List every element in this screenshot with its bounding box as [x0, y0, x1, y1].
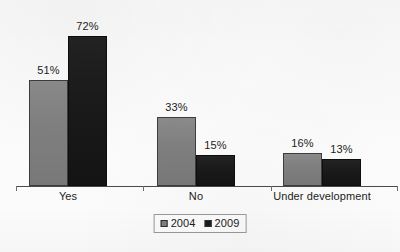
legend-swatch-2004-icon [161, 220, 168, 227]
bar-value-label: 51% [37, 64, 59, 76]
bar-2004-under-development [283, 153, 322, 186]
legend-item-2009: 2009 [205, 217, 240, 229]
bar-slot: 13% [322, 8, 361, 186]
bar-2004-yes [29, 80, 68, 186]
bar-2009-under-development [322, 159, 361, 186]
bar-group: 51%72% [29, 8, 107, 186]
bar-2009-no [196, 155, 235, 186]
bar-group: 16%13% [283, 8, 361, 186]
bar-group: 33%15% [157, 8, 235, 186]
bar-value-label: 72% [76, 20, 98, 32]
bar-slot: 15% [196, 8, 235, 186]
category-label-yes: Yes [0, 190, 138, 202]
x-axis-tick-3 [397, 186, 398, 191]
bar-value-label: 13% [330, 143, 352, 155]
bar-slot: 33% [157, 8, 196, 186]
chart-legend: 2004 2009 [154, 214, 247, 233]
bar-2009-yes [68, 36, 107, 186]
category-label-no: No [126, 190, 266, 202]
x-axis-line [16, 186, 398, 187]
bar-value-label: 33% [165, 101, 187, 113]
bar-slot: 72% [68, 8, 107, 186]
legend-item-2004: 2004 [161, 217, 196, 229]
bar-slot: 51% [29, 8, 68, 186]
clipped-caption [0, 243, 400, 252]
legend-label-2009: 2009 [215, 217, 240, 229]
bar-slot: 16% [283, 8, 322, 186]
legend-label-2004: 2004 [171, 217, 196, 229]
bar-2004-no [157, 117, 196, 186]
bar-chart: 51%72%33%15%16%13% YesNoUnder developmen… [0, 0, 400, 252]
bar-value-label: 16% [291, 137, 313, 149]
bar-value-label: 15% [204, 139, 226, 151]
category-label-under-development: Under development [252, 190, 392, 202]
legend-swatch-2009-icon [205, 220, 212, 227]
